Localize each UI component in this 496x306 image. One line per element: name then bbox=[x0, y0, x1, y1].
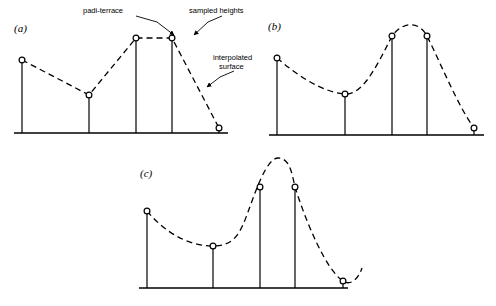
panel-b-stems bbox=[277, 36, 474, 135]
sample-point bbox=[257, 184, 263, 190]
panel-a-interpolated-surface bbox=[22, 38, 219, 128]
sample-point bbox=[144, 208, 150, 214]
sample-point bbox=[471, 125, 477, 131]
panel-b-label: (b) bbox=[268, 20, 281, 33]
figure-canvas: (a) padi-terrace sampled heights interpo… bbox=[0, 0, 496, 306]
sample-point bbox=[216, 125, 222, 131]
sample-point bbox=[424, 33, 430, 39]
panel-a-label: (a) bbox=[14, 22, 27, 35]
panel-c-interpolated-surface bbox=[147, 158, 362, 283]
sample-point bbox=[169, 35, 175, 41]
sampled-heights-leader-line bbox=[194, 16, 222, 35]
panel-a-stems bbox=[22, 38, 219, 133]
sample-point bbox=[86, 92, 92, 98]
interpolated-surface-label-line1: interpolated bbox=[213, 53, 252, 62]
sample-point bbox=[292, 184, 298, 190]
panel-a: (a) bbox=[14, 22, 228, 133]
sample-point bbox=[342, 91, 348, 97]
annotation-sampled-heights: sampled heights bbox=[189, 6, 244, 35]
sample-point bbox=[340, 278, 346, 284]
padi-terrace-label: padi-terrace bbox=[83, 6, 123, 15]
panel-c: (c) bbox=[139, 158, 362, 288]
sampled-heights-label: sampled heights bbox=[189, 6, 244, 15]
interpolated-surface-leader-line bbox=[207, 71, 234, 87]
annotation-interpolated-surface: interpolated surface bbox=[207, 53, 252, 87]
panel-b-interpolated-surface bbox=[277, 25, 474, 128]
interpolated-surface-label-line2: surface bbox=[219, 62, 244, 71]
padi-terrace-leader-line bbox=[136, 16, 174, 35]
panel-c-label: (c) bbox=[140, 167, 153, 180]
panel-b: (b) bbox=[268, 20, 484, 135]
sample-point bbox=[133, 35, 139, 41]
panel-c-sample-markers bbox=[144, 184, 346, 284]
annotation-padi-terrace: padi-terrace bbox=[83, 6, 174, 35]
panel-b-sample-markers bbox=[274, 33, 477, 131]
sample-point bbox=[210, 243, 216, 249]
sample-point bbox=[19, 57, 25, 63]
panel-a-sample-markers bbox=[19, 35, 222, 131]
sample-point bbox=[274, 55, 280, 61]
sample-point bbox=[389, 33, 395, 39]
